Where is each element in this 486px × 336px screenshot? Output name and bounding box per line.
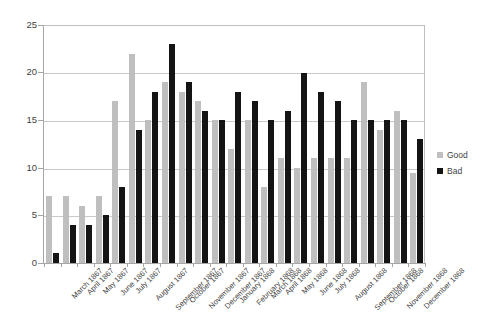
bar-good[interactable] bbox=[79, 206, 85, 263]
bar-good[interactable] bbox=[195, 101, 201, 263]
bar-bad[interactable] bbox=[285, 111, 291, 263]
bar-group bbox=[143, 25, 160, 263]
bar-bad[interactable] bbox=[252, 101, 258, 263]
legend-swatch-good-icon bbox=[437, 152, 443, 158]
y-tick-label-25: 25 bbox=[11, 20, 37, 30]
bar-bad[interactable] bbox=[219, 120, 225, 263]
bar-group bbox=[110, 25, 127, 263]
bar-bad[interactable] bbox=[53, 253, 59, 263]
bar-good[interactable] bbox=[344, 158, 350, 263]
legend-label-good: Good bbox=[447, 151, 468, 160]
bar-good[interactable] bbox=[96, 196, 102, 263]
bar-good[interactable] bbox=[261, 187, 267, 263]
bar-bad[interactable] bbox=[202, 111, 208, 263]
bar-group bbox=[193, 25, 210, 263]
bar-good[interactable] bbox=[278, 158, 284, 263]
bar-bad[interactable] bbox=[384, 120, 390, 263]
legend-swatch-bad-icon bbox=[437, 168, 443, 174]
bar-bad[interactable] bbox=[86, 225, 92, 263]
bar-group bbox=[392, 25, 409, 263]
legend-label-bad: Bad bbox=[447, 167, 462, 176]
bar-group bbox=[77, 25, 94, 263]
bar-group bbox=[408, 25, 425, 263]
bar-group bbox=[94, 25, 111, 263]
bar-good[interactable] bbox=[112, 101, 118, 263]
bar-group bbox=[342, 25, 359, 263]
bar-bad[interactable] bbox=[417, 139, 423, 263]
bar-good[interactable] bbox=[311, 158, 317, 263]
bar-group bbox=[160, 25, 177, 263]
bar-group bbox=[375, 25, 392, 263]
legend-item-good[interactable]: Good bbox=[437, 150, 468, 160]
bar-good[interactable] bbox=[294, 168, 300, 263]
bar-bad[interactable] bbox=[152, 92, 158, 263]
bar-good[interactable] bbox=[328, 158, 334, 263]
bar-good[interactable] bbox=[410, 173, 416, 263]
bar-bad[interactable] bbox=[401, 120, 407, 263]
bar-group bbox=[210, 25, 227, 263]
bar-good[interactable] bbox=[179, 92, 185, 263]
x-axis-labels: March 1867April 1867May 1867June 1867Jul… bbox=[0, 266, 486, 336]
bar-good[interactable] bbox=[394, 111, 400, 263]
y-tick-label-10: 10 bbox=[11, 163, 37, 173]
y-tick-label-5: 5 bbox=[11, 210, 37, 220]
y-tick-label-15: 15 bbox=[11, 115, 37, 125]
bar-good[interactable] bbox=[145, 120, 151, 263]
bar-group bbox=[127, 25, 144, 263]
bar-good[interactable] bbox=[129, 54, 135, 263]
bar-bad[interactable] bbox=[318, 92, 324, 263]
bar-group bbox=[309, 25, 326, 263]
bar-good[interactable] bbox=[245, 120, 251, 263]
bar-bad[interactable] bbox=[119, 187, 125, 263]
y-tick-label-20: 20 bbox=[11, 67, 37, 77]
bar-group bbox=[359, 25, 376, 263]
bar-group bbox=[326, 25, 343, 263]
bar-good[interactable] bbox=[63, 196, 69, 263]
bar-good[interactable] bbox=[228, 149, 234, 263]
bars-layer bbox=[44, 25, 425, 263]
bar-bad[interactable] bbox=[136, 130, 142, 263]
bar-bad[interactable] bbox=[351, 120, 357, 263]
bar-bad[interactable] bbox=[368, 120, 374, 263]
bar-bad[interactable] bbox=[186, 82, 192, 263]
bar-group bbox=[44, 25, 61, 263]
bar-bad[interactable] bbox=[268, 120, 274, 263]
chart-legend: Good Bad bbox=[437, 150, 468, 182]
bar-chart: 25 20 15 10 5 0 March 1867April 1867May … bbox=[0, 0, 486, 336]
bar-bad[interactable] bbox=[335, 101, 341, 263]
bar-good[interactable] bbox=[162, 82, 168, 263]
bar-good[interactable] bbox=[212, 120, 218, 263]
bar-good[interactable] bbox=[377, 130, 383, 263]
bar-bad[interactable] bbox=[235, 92, 241, 263]
bar-group bbox=[177, 25, 194, 263]
bar-group bbox=[61, 25, 78, 263]
bar-good[interactable] bbox=[46, 196, 52, 263]
bar-group bbox=[243, 25, 260, 263]
bar-bad[interactable] bbox=[103, 215, 109, 263]
bar-bad[interactable] bbox=[169, 44, 175, 263]
bar-group bbox=[292, 25, 309, 263]
bar-good[interactable] bbox=[361, 82, 367, 263]
bar-group bbox=[226, 25, 243, 263]
legend-item-bad[interactable]: Bad bbox=[437, 166, 468, 176]
bar-bad[interactable] bbox=[301, 73, 307, 263]
bar-group bbox=[276, 25, 293, 263]
bar-bad[interactable] bbox=[70, 225, 76, 263]
bar-group bbox=[259, 25, 276, 263]
